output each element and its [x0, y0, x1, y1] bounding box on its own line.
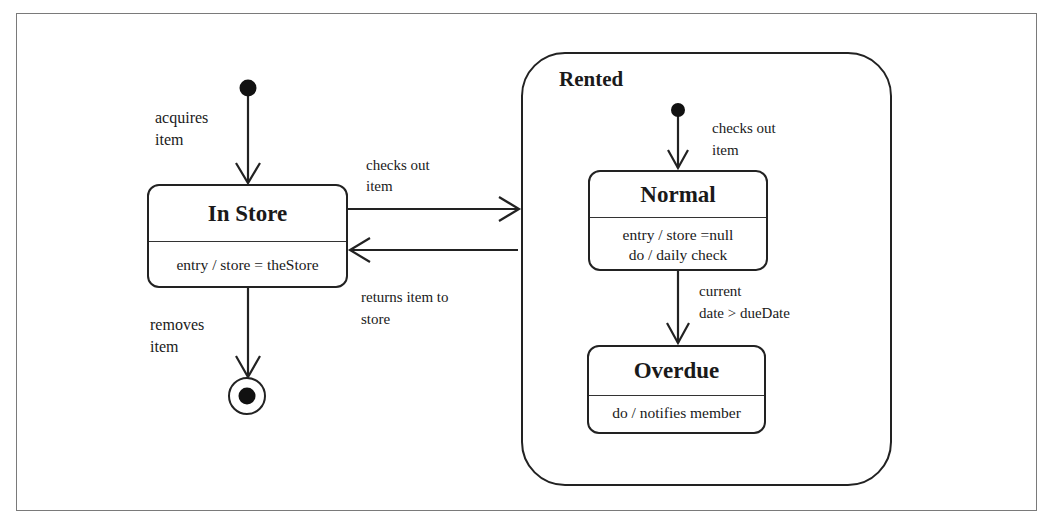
state-overdue-name: Overdue: [589, 347, 764, 396]
state-in-store-activity: entry / store = theStore: [149, 255, 346, 275]
state-normal-name: Normal: [590, 172, 766, 218]
transition-label-acquires: acquires item: [155, 107, 208, 151]
state-in-store[interactable]: In Store entry / store = theStore: [147, 184, 348, 288]
transition-label-inner-checks-out: checks out item: [712, 117, 776, 161]
state-overdue-activity: do / notifies member: [589, 403, 764, 423]
transition-label-removes: removes item: [150, 314, 204, 358]
initial-state-icon: [240, 80, 257, 97]
state-in-store-name: In Store: [149, 186, 346, 242]
transition-label-checks-out: checks out item: [366, 155, 430, 197]
transition-label-returns: returns item to store: [361, 286, 448, 330]
state-normal[interactable]: Normal entry / store =null do / daily ch…: [588, 170, 768, 271]
transition-label-current-date: current date > dueDate: [699, 280, 790, 324]
state-normal-activity: do / daily check: [590, 245, 766, 265]
state-rented-name: Rented: [559, 67, 623, 92]
state-overdue[interactable]: Overdue do / notifies member: [587, 345, 766, 434]
state-normal-activity: entry / store =null: [590, 225, 766, 245]
